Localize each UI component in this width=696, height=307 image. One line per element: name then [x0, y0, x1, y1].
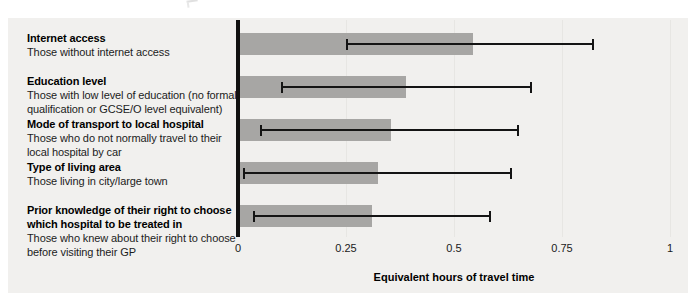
- category-subtitle: Those who knew about their right to choo…: [27, 231, 239, 259]
- category-label-group: Prior knowledge of their right to choose…: [27, 203, 239, 259]
- category-subtitle: Those with low level of education (no fo…: [27, 88, 239, 116]
- category-label-group: Type of living areaThose living in city/…: [27, 160, 239, 188]
- x-tick-label: 0.25: [335, 242, 356, 254]
- crop-artifact: [187, 0, 199, 8]
- error-bar-line: [243, 172, 512, 174]
- gridline: [562, 20, 563, 237]
- error-bar-line: [281, 86, 532, 88]
- category-label-group: Internet accessThose without internet ac…: [27, 31, 239, 59]
- category-title: Mode of transport to local hospital: [27, 117, 239, 131]
- error-bar-cap-right: [517, 125, 519, 136]
- error-bar-3: [260, 125, 519, 136]
- error-bar-2: [281, 82, 532, 93]
- error-bar-4: [243, 168, 512, 179]
- y-axis-line: [236, 20, 240, 237]
- error-bar-cap-left: [243, 168, 245, 179]
- category-subtitle: Those who do not normally travel to thei…: [27, 131, 239, 159]
- category-subtitle: Those without internet access: [27, 45, 239, 59]
- x-tick-label: 0.5: [446, 242, 461, 254]
- category-title: Internet access: [27, 31, 239, 45]
- category-label-group: Education levelThose with low level of e…: [27, 74, 239, 116]
- chart-figure: Internet accessThose without internet ac…: [0, 0, 696, 307]
- category-label-group: Mode of transport to local hospitalThose…: [27, 117, 239, 159]
- error-bar-cap-right: [510, 168, 512, 179]
- error-bar-cap-right: [592, 39, 594, 50]
- error-bar-line: [346, 43, 594, 45]
- error-bar-cap-left: [260, 125, 262, 136]
- x-tick-label: 1: [667, 242, 673, 254]
- x-tick-label: 0: [235, 242, 241, 254]
- error-bar-line: [253, 215, 491, 217]
- x-axis-title: Equivalent hours of travel time: [374, 271, 535, 284]
- chart-panel: Internet accessThose without internet ac…: [8, 18, 688, 293]
- error-bar-1: [346, 39, 594, 50]
- gridline: [670, 20, 671, 237]
- x-tick-label: 0.75: [551, 242, 572, 254]
- error-bar-cap-left: [253, 211, 255, 222]
- error-bar-cap-left: [281, 82, 283, 93]
- error-bar-cap-left: [346, 39, 348, 50]
- error-bar-line: [260, 129, 519, 131]
- error-bar-cap-right: [489, 211, 491, 222]
- category-title: Education level: [27, 74, 239, 88]
- error-bar-cap-right: [530, 82, 532, 93]
- category-title: Prior knowledge of their right to choose…: [27, 203, 239, 231]
- error-bar-5: [253, 211, 491, 222]
- category-subtitle: Those living in city/large town: [27, 174, 239, 188]
- category-title: Type of living area: [27, 160, 239, 174]
